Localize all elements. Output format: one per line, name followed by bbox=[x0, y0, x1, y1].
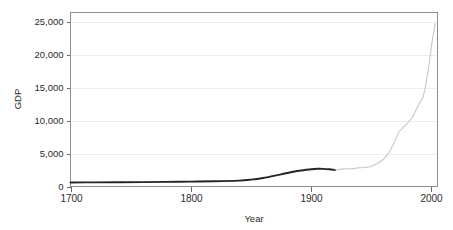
series-line-historic-estimate bbox=[71, 169, 336, 183]
y-axis-title: GDP bbox=[12, 89, 23, 110]
x-tick-label: 1700 bbox=[60, 193, 83, 204]
x-tick-label: 1900 bbox=[300, 193, 323, 204]
y-tick-label: 25,000 bbox=[34, 16, 63, 27]
y-tick-label: 5,000 bbox=[40, 148, 64, 159]
x-axis-title: Year bbox=[244, 213, 263, 224]
chart-canvas: 05,00010,00015,00020,00025,000 170018001… bbox=[0, 0, 453, 230]
y-tick-labels-group: 05,00010,00015,00020,00025,000 bbox=[34, 16, 63, 192]
y-tick-label: 20,000 bbox=[34, 49, 63, 60]
x-tickmarks-group bbox=[72, 187, 432, 192]
gridlines-group bbox=[71, 23, 438, 155]
y-tick-label: 0 bbox=[58, 181, 63, 192]
x-tick-labels-group: 1700180019002000 bbox=[60, 193, 443, 204]
y-tickmarks-group bbox=[67, 23, 71, 188]
series-line-modern-series bbox=[335, 24, 435, 170]
y-tick-label: 10,000 bbox=[34, 115, 63, 126]
x-tick-label: 2000 bbox=[420, 193, 443, 204]
gdp-chart-figure: 05,00010,00015,00020,00025,000 170018001… bbox=[0, 0, 453, 230]
y-tick-label: 15,000 bbox=[34, 82, 63, 93]
x-tick-label: 1800 bbox=[180, 193, 203, 204]
